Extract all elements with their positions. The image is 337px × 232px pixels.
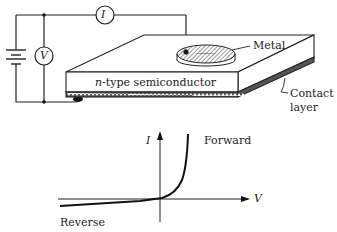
x-axis-label: V <box>254 193 262 204</box>
ammeter-label: I <box>101 9 105 20</box>
contact-leader-line <box>281 78 288 93</box>
semiconductor-label: n-type semiconductor <box>95 77 216 88</box>
contact-label-line2: layer <box>290 102 318 113</box>
metal-contact <box>177 45 235 66</box>
forward-label: Forward <box>204 135 251 146</box>
schottky-diode-diagram: I V Metal n-type semiconductor Contact l… <box>0 0 337 232</box>
x-axis-arrow-icon <box>241 196 250 202</box>
iv-curve <box>60 134 188 206</box>
y-axis-label: I <box>146 135 150 146</box>
diagram-graphics <box>0 0 337 232</box>
battery-icon <box>6 50 26 64</box>
contact-label-line1: Contact <box>290 88 334 99</box>
iv-axes <box>58 136 248 222</box>
metal-label: Metal <box>253 40 285 51</box>
voltmeter-label: V <box>40 50 48 61</box>
semiconductor-label-rest: -type semiconductor <box>102 76 216 89</box>
reverse-label: Reverse <box>60 217 105 228</box>
y-axis-arrow-icon <box>157 131 163 140</box>
